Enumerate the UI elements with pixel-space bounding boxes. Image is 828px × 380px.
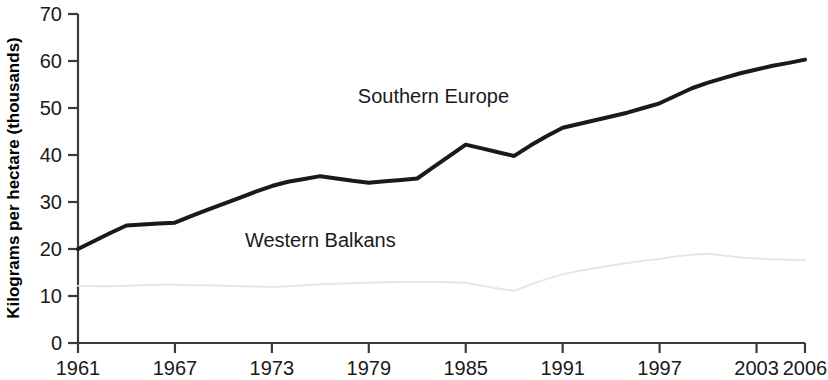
- x-tick-label: 1973: [250, 357, 295, 379]
- x-tick-label: 2003: [734, 357, 779, 379]
- x-tick-label: 1967: [153, 357, 198, 379]
- series-label: Western Balkans: [245, 229, 396, 251]
- series-label: Southern Europe: [358, 85, 509, 107]
- x-tick-label: 1961: [56, 357, 101, 379]
- y-tick-label: 30: [40, 191, 62, 213]
- y-axis-title: Kilograms per hectare (thousands): [4, 37, 23, 319]
- y-tick-label: 50: [40, 97, 62, 119]
- series-line: [78, 254, 805, 291]
- line-chart: Kilograms per hectare (thousands) 010203…: [0, 0, 828, 380]
- y-axis-ticks: 010203040506070: [40, 3, 78, 354]
- x-tick-label: 2006: [783, 357, 828, 379]
- y-tick-label: 10: [40, 285, 62, 307]
- y-tick-label: 60: [40, 50, 62, 72]
- y-axis-title-group: Kilograms per hectare (thousands): [4, 37, 23, 319]
- x-tick-label: 1991: [540, 357, 585, 379]
- chart-container: Kilograms per hectare (thousands) 010203…: [0, 0, 828, 380]
- axis-spines: [78, 14, 805, 343]
- y-tick-label: 70: [40, 3, 62, 25]
- y-tick-label: 20: [40, 238, 62, 260]
- y-tick-label: 40: [40, 144, 62, 166]
- x-tick-label: 1979: [347, 357, 392, 379]
- series-labels-group: Southern EuropeWestern Balkans: [245, 85, 509, 250]
- x-tick-label: 1985: [443, 357, 488, 379]
- x-axis-ticks: 196119671973197919851991199720032006: [56, 343, 828, 379]
- x-tick-label: 1997: [637, 357, 682, 379]
- y-tick-label: 0: [51, 332, 62, 354]
